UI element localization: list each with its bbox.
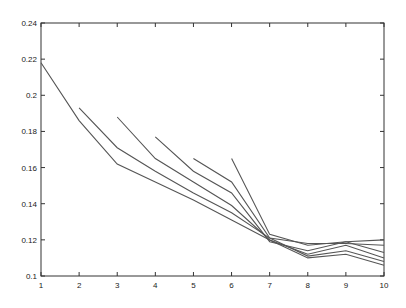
x-tick-label: 1	[39, 281, 44, 290]
x-tick-label: 7	[267, 281, 272, 290]
axes-box	[41, 23, 384, 276]
y-tick-label: 0.1	[26, 272, 38, 281]
x-tick-label: 3	[115, 281, 120, 290]
x-tick-label: 10	[380, 281, 389, 290]
series-line-start-4	[155, 137, 384, 253]
y-tick-label: 0.18	[21, 127, 37, 136]
y-axis: 0.10.120.140.160.180.20.220.24	[21, 19, 384, 281]
y-tick-label: 0.14	[21, 200, 37, 209]
x-tick-label: 2	[77, 281, 82, 290]
y-tick-label: 0.16	[21, 164, 37, 173]
line-chart: 0.10.120.140.160.180.20.220.24 123456789…	[0, 0, 406, 308]
x-tick-label: 5	[191, 281, 196, 290]
x-tick-label: 8	[306, 281, 311, 290]
series-line-start-1	[41, 63, 384, 265]
series-line-start-5	[193, 159, 384, 246]
x-tick-label: 6	[229, 281, 234, 290]
x-tick-label: 9	[344, 281, 349, 290]
series-line-start-2	[79, 108, 384, 262]
series-lines	[41, 63, 384, 265]
x-tick-label: 4	[153, 281, 158, 290]
y-tick-label: 0.22	[21, 55, 37, 64]
y-tick-label: 0.2	[26, 91, 38, 100]
y-tick-label: 0.24	[21, 19, 37, 28]
y-tick-label: 0.12	[21, 236, 37, 245]
plot-frame	[41, 23, 384, 276]
x-axis: 12345678910	[39, 23, 389, 290]
